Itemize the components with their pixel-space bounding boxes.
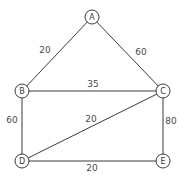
node-b-label: B — [19, 87, 25, 96]
edge-weight-a-c: 60 — [135, 47, 147, 57]
edge-weight-b-c: 35 — [87, 79, 98, 89]
edge-weight-a-b: 20 — [39, 45, 51, 55]
edge-a-b — [22, 17, 92, 91]
node-d-label: D — [19, 157, 25, 166]
edges-group — [22, 17, 163, 161]
node-a: A — [85, 10, 99, 24]
node-d: D — [15, 154, 29, 168]
graph-diagram: 20 60 35 60 20 80 20 A B C D E — [0, 0, 185, 180]
edge-c-d — [22, 91, 163, 161]
nodes-group: A B C D E — [15, 10, 170, 168]
node-e-label: E — [160, 157, 165, 166]
edge-weight-d-e: 20 — [86, 163, 98, 173]
node-b: B — [15, 84, 29, 98]
edge-weight-c-e: 80 — [165, 116, 177, 126]
node-e: E — [156, 154, 170, 168]
edge-weight-b-d: 60 — [6, 115, 18, 125]
edge-weight-c-d: 20 — [85, 114, 97, 124]
edge-a-c — [92, 17, 163, 91]
node-c-label: C — [160, 87, 166, 96]
node-a-label: A — [89, 13, 95, 22]
node-c: C — [156, 84, 170, 98]
edge-labels-group: 20 60 35 60 20 80 20 — [6, 45, 177, 173]
